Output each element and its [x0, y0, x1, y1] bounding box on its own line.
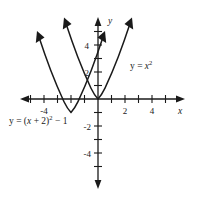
x-axis-label: x — [177, 106, 183, 116]
y-axis: 4 2 -2 -4 y — [84, 16, 113, 189]
shifted-eq-mid: + 2) — [31, 116, 49, 126]
x-axis-left-arrow-icon — [20, 96, 29, 103]
x-axis-right-arrow-icon — [176, 96, 185, 103]
y-axis-up-arrow-icon — [95, 17, 102, 26]
parent-eq-lhs: y = — [130, 61, 145, 71]
equation-label-shifted-parabola: y = (x + 2)2 − 1 — [9, 117, 67, 127]
equation-label-parent-parabola: y = x2 — [130, 62, 152, 72]
x-tick-label-4: 4 — [150, 106, 155, 116]
shifted-eq-tail: − 1 — [53, 116, 68, 126]
x-tick-label-2: 2 — [123, 106, 128, 116]
y-axis-label: y — [107, 16, 113, 26]
y-tick-label-4: 4 — [85, 41, 90, 51]
y-tick-label-minus2: -2 — [84, 122, 92, 132]
x-tick-label-minus4: -4 — [40, 106, 48, 116]
coordinate-plane: -4 2 4 x 4 2 -2 -4 y — [0, 0, 200, 204]
shifted-eq-lhs: y = ( — [9, 116, 27, 126]
y-axis-down-arrow-icon — [95, 180, 102, 189]
x-axis: -4 2 4 x — [20, 95, 185, 116]
y-tick-label-minus4: -4 — [84, 149, 92, 159]
graph-figure: -4 2 4 x 4 2 -2 -4 y — [0, 0, 200, 204]
parent-eq-exponent: 2 — [149, 59, 152, 66]
